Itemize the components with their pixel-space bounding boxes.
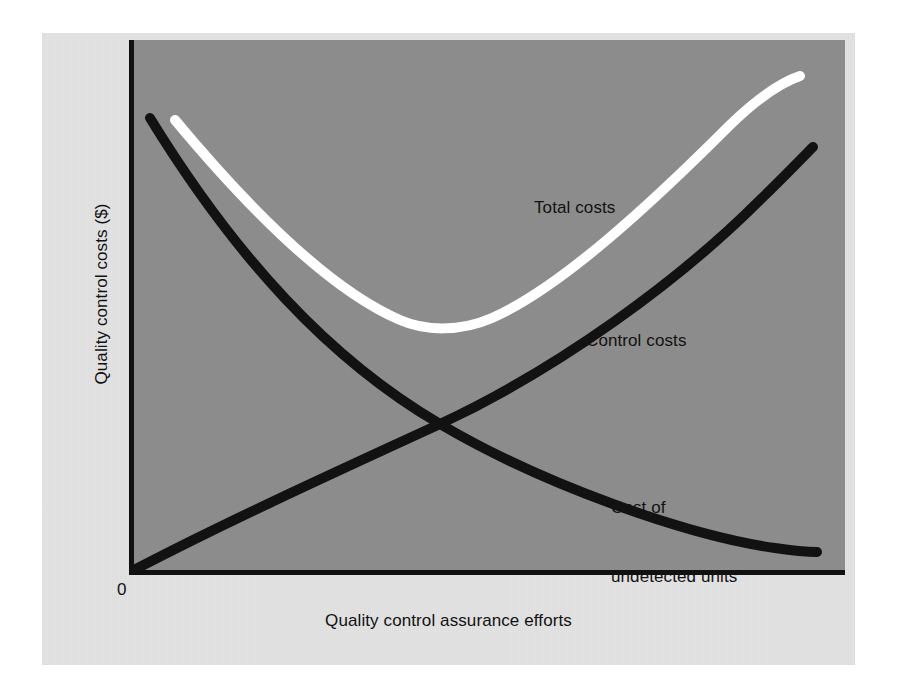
annotation-cost-of-undetected-units-line1: Cost of: [611, 496, 737, 519]
chart-figure: Total costs Control costs Cost of undete…: [0, 0, 897, 695]
annotation-cost-of-undetected-units: Cost of undetected units: [611, 450, 737, 634]
x-axis-origin-label: 0: [117, 580, 127, 600]
series-total-costs-curve: [175, 76, 800, 328]
annotation-total-costs: Total costs: [534, 198, 615, 218]
annotation-control-costs: Control costs: [586, 331, 687, 351]
y-axis-title: Quality control costs ($): [92, 144, 112, 444]
chart-curves: [0, 0, 897, 695]
x-axis-title: Quality control assurance efforts: [0, 611, 897, 631]
annotation-cost-of-undetected-units-line2: undetected units: [611, 565, 737, 588]
